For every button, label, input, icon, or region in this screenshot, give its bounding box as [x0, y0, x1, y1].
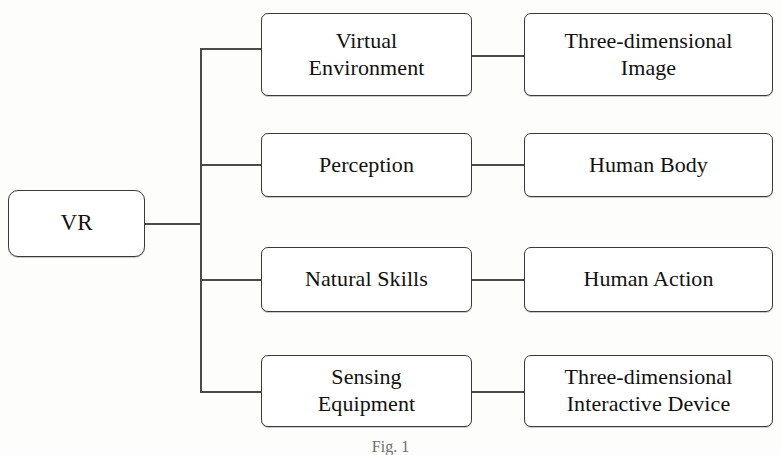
node-branch-natural-skills: Natural Skills	[261, 247, 472, 312]
node-leaf-human-body: Human Body	[524, 133, 773, 197]
node-branch-perception: Perception	[261, 133, 472, 197]
node-branch-sensing-equipment-label: Sensing Equipment	[312, 364, 421, 418]
connector-branch-1-to-leaf-1	[471, 55, 525, 57]
connector-branch-3-to-leaf-3	[471, 279, 525, 281]
node-branch-virtual-environment-label: Virtual Environment	[303, 28, 431, 82]
node-branch-perception-label: Perception	[313, 152, 420, 179]
connector-spine-to-branch-2	[200, 164, 262, 166]
connector-spine-to-branch-4	[200, 391, 262, 393]
node-leaf-human-body-label: Human Body	[583, 152, 714, 179]
node-root-vr-label: VR	[54, 209, 98, 237]
node-branch-sensing-equipment: Sensing Equipment	[261, 355, 472, 427]
connector-vertical-spine	[200, 48, 202, 392]
figure-caption: Fig. 1	[0, 437, 781, 455]
connector-branch-4-to-leaf-4	[471, 391, 525, 393]
node-branch-virtual-environment: Virtual Environment	[261, 13, 472, 96]
node-leaf-three-dimensional-interactive-device-label: Three-dimensional Interactive Device	[559, 364, 739, 418]
connector-root-to-spine	[145, 223, 202, 225]
node-leaf-human-action: Human Action	[524, 247, 773, 312]
node-root-vr: VR	[8, 190, 145, 257]
node-leaf-human-action-label: Human Action	[577, 266, 719, 293]
node-leaf-three-dimensional-image: Three-dimensional Image	[524, 13, 773, 96]
node-leaf-three-dimensional-image-label: Three-dimensional Image	[559, 28, 739, 82]
connector-spine-to-branch-3	[200, 279, 262, 281]
node-branch-natural-skills-label: Natural Skills	[299, 266, 434, 293]
figure-canvas: VR Virtual Environment Perception Natura…	[0, 0, 781, 455]
connector-branch-2-to-leaf-2	[471, 164, 525, 166]
connector-spine-to-branch-1	[200, 48, 262, 50]
node-leaf-three-dimensional-interactive-device: Three-dimensional Interactive Device	[524, 355, 773, 427]
